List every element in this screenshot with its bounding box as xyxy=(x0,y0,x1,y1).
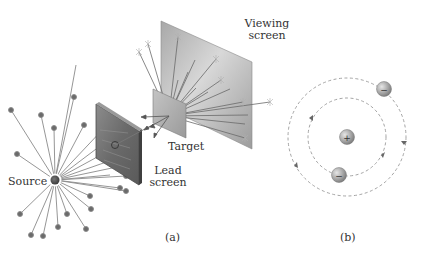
figure-graphics: + − − xyxy=(0,0,422,253)
electron-minus-symbol: − xyxy=(380,85,388,95)
source-dot xyxy=(49,174,62,187)
lead-screen-label: Lead screen xyxy=(148,165,188,189)
lead-screen xyxy=(96,102,142,185)
viewing-screen-label-line2: screen xyxy=(237,30,297,42)
lead-screen-label-line2: screen xyxy=(148,177,188,189)
panel-b-caption: (b) xyxy=(340,232,356,244)
rutherford-scattering-figure: + − − Source Lead screen Target Viewing … xyxy=(0,0,422,253)
panel-a-caption: (a) xyxy=(165,232,180,244)
orbit-arrow-icon xyxy=(381,152,385,158)
nucleus-plus-symbol: + xyxy=(343,133,351,143)
orbit-arrow-icon xyxy=(309,115,313,121)
electron-minus-symbol: − xyxy=(335,171,343,181)
viewing-screen-label: Viewing screen xyxy=(237,18,297,42)
source-label: Source xyxy=(8,176,47,188)
target-label: Target xyxy=(168,141,204,153)
